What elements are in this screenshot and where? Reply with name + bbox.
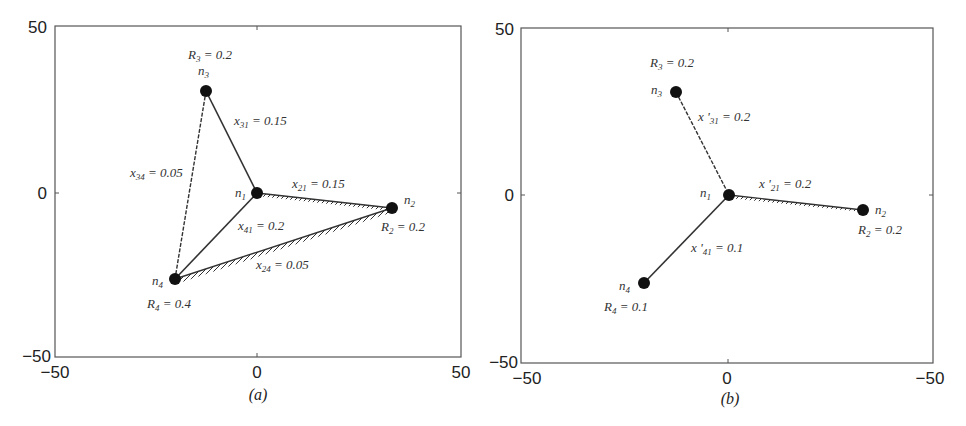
edge-label-x31: x31 = 0.15 xyxy=(233,113,287,130)
y-tick-top: 50 xyxy=(495,20,514,39)
edge-x31 xyxy=(206,91,257,193)
node-n3 xyxy=(200,85,212,97)
y-tick-mid: 0 xyxy=(38,184,47,203)
node-n2 xyxy=(386,202,398,214)
r-label-n2: R2 = 0.2 xyxy=(857,222,902,239)
edge-x21 xyxy=(257,193,392,211)
r-label-n4: R4 = 0.1 xyxy=(603,299,648,316)
edge-label-x'31: x '31 = 0.2 xyxy=(697,109,751,126)
x-tick-left: −50 xyxy=(41,363,70,382)
caption-a: (a) xyxy=(249,386,268,404)
r-label-n3: R3 = 0.2 xyxy=(187,47,232,64)
edge-label-x21: x21 = 0.15 xyxy=(291,176,345,193)
panel-b: 50 0 −50 −50 0 −50 n1 n2 n3 n4 R2 = 0.2 … xyxy=(489,20,944,408)
node-n2 xyxy=(857,204,869,216)
y-tick-mid: 0 xyxy=(505,186,514,205)
node-n4 xyxy=(638,277,650,289)
edge-label-x'21: x '21 = 0.2 xyxy=(758,176,812,193)
node-label-n2: n2 xyxy=(404,192,416,209)
r-label-n2: R2 = 0.2 xyxy=(380,219,425,236)
node-n4 xyxy=(169,273,181,285)
y-tick-top: 50 xyxy=(28,18,47,37)
node-label-n1: n1 xyxy=(700,185,711,202)
x-tick-right: 50 xyxy=(452,363,471,382)
node-label-n3: n3 xyxy=(198,63,210,80)
edge-label-x'41: x '41 = 0.1 xyxy=(690,240,743,257)
node-label-n1: n1 xyxy=(235,185,246,202)
node-n1 xyxy=(723,189,735,201)
node-label-n4: n4 xyxy=(152,273,164,290)
node-n1 xyxy=(251,187,263,199)
x-tick-mid: 0 xyxy=(252,363,261,382)
node-label-n2: n2 xyxy=(875,202,887,219)
edge-x'41 xyxy=(644,195,729,283)
node-n3 xyxy=(670,86,682,98)
edge-label-x41: x41 = 0.2 xyxy=(237,218,285,235)
r-label-n3: R3 = 0.2 xyxy=(649,55,694,72)
edge-x'31 xyxy=(676,92,729,195)
r-label-n4: R4 = 0.4 xyxy=(146,296,191,313)
figure: 50 0 −50 −50 0 50 n1 n2 n3 n4 R2 = 0.2 R… xyxy=(0,0,966,426)
edge-label-x24: x24 = 0.05 xyxy=(255,257,309,274)
edge-label-x34: x34 = 0.05 xyxy=(129,165,183,182)
x-tick-left: −50 xyxy=(513,369,542,388)
node-label-n3: n3 xyxy=(651,82,663,99)
edge-x'21 xyxy=(729,195,863,212)
panel-a: 50 0 −50 −50 0 50 n1 n2 n3 n4 R2 = 0.2 R… xyxy=(22,18,470,404)
caption-b: (b) xyxy=(721,390,740,408)
node-label-n4: n4 xyxy=(619,278,631,295)
x-tick-mid: 0 xyxy=(722,369,731,388)
x-tick-right: −50 xyxy=(916,369,945,388)
